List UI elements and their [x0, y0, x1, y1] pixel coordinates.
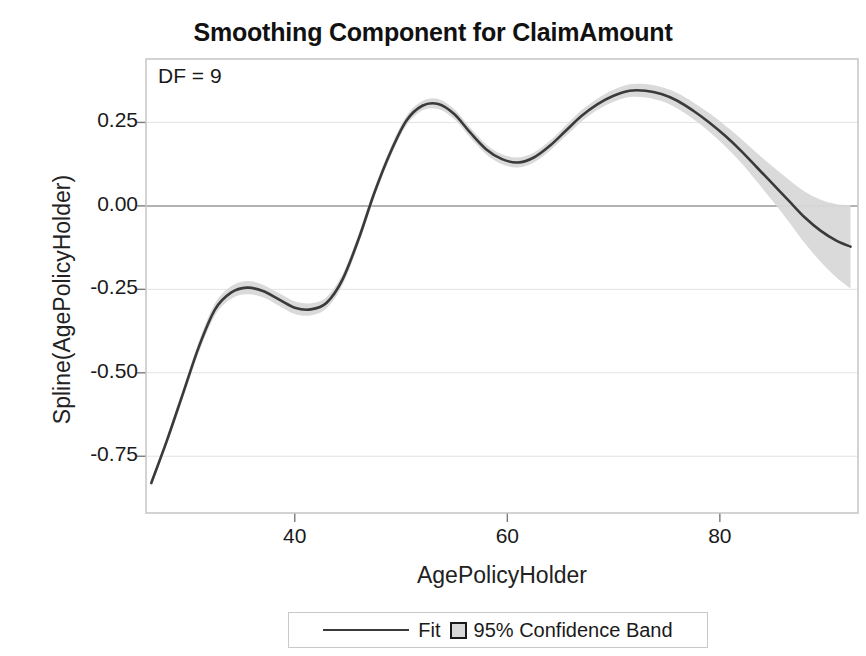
y-tick-label: 0.25	[46, 108, 138, 132]
legend-square-swatch-confidence-band	[450, 622, 467, 639]
df-annotation: DF = 9	[158, 64, 222, 88]
legend-label-fit: Fit	[418, 619, 440, 642]
y-tick-label: -0.50	[46, 359, 138, 383]
plot-area	[0, 0, 866, 656]
legend-item-confidence-band: 95% Confidence Band	[450, 619, 673, 642]
y-tick-label: -0.75	[46, 442, 138, 466]
x-tick-label: 80	[680, 524, 760, 548]
x-axis-title: AgePolicyHolder	[146, 562, 858, 589]
spline-chart: Smoothing Component for ClaimAmount Spli…	[0, 0, 866, 656]
x-tick-label: 40	[255, 524, 335, 548]
chart-legend: Fit 95% Confidence Band	[288, 612, 708, 648]
legend-line-swatch-fit	[323, 629, 409, 631]
y-tick-label: 0.00	[46, 192, 138, 216]
x-tick-label: 60	[467, 524, 547, 548]
y-tick-label: -0.25	[46, 275, 138, 299]
legend-label-confidence-band: 95% Confidence Band	[474, 619, 673, 642]
